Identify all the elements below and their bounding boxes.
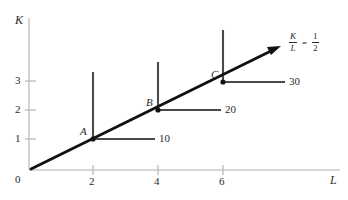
ratio-numerator-k: K: [289, 32, 297, 43]
point-c-marker: [220, 79, 225, 84]
isoquant-label-30: 30: [289, 76, 300, 87]
ray-arrowhead: [267, 46, 281, 55]
y-tick-label-1: 1: [15, 133, 21, 144]
y-tick-label-2: 2: [15, 104, 21, 115]
x-axis-label: L: [330, 174, 337, 186]
isoquant-figure: K L 0 3 2 1 2 4 6 A B C 10 20 30 K L = 1…: [0, 0, 348, 200]
figure-canvas: [0, 0, 348, 200]
point-a-marker: [90, 136, 95, 141]
isoquant-label-10: 10: [159, 133, 170, 144]
ratio-fraction-kl: K L: [289, 32, 297, 54]
x-tick-label-6: 6: [219, 176, 225, 187]
point-label-a: A: [80, 126, 87, 137]
ratio-denominator-l: L: [290, 43, 297, 53]
isoquant-label-20: 20: [225, 104, 236, 115]
ratio-equals-sign: =: [302, 38, 307, 48]
point-b-marker: [155, 107, 160, 112]
x-tick-label-2: 2: [89, 176, 95, 187]
x-tick-label-4: 4: [154, 176, 160, 187]
origin-label: 0: [15, 174, 21, 185]
ratio-denominator-two: 2: [312, 43, 319, 53]
ratio-fraction-half: 1 2: [312, 32, 319, 54]
ratio-annotation: K L = 1 2: [287, 32, 321, 54]
ratio-numerator-one: 1: [312, 32, 319, 43]
y-axis-label: K: [15, 14, 23, 26]
expansion-path-ray: [31, 49, 275, 169]
point-label-c: C: [211, 69, 218, 80]
point-label-b: B: [146, 97, 153, 108]
y-tick-label-3: 3: [15, 75, 21, 86]
